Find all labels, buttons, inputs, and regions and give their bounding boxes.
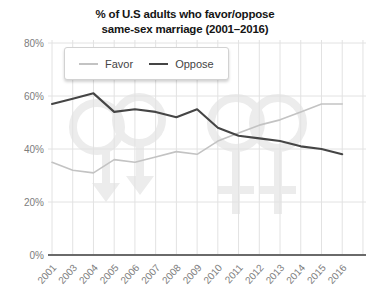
- svg-text:2008: 2008: [160, 262, 183, 286]
- svg-text:2012: 2012: [243, 262, 266, 286]
- legend-item-oppose: Oppose: [149, 58, 214, 70]
- watermark-gender-symbols: [73, 97, 303, 214]
- svg-text:60%: 60%: [24, 91, 44, 102]
- line-chart: 0%20%40%60%80%20012003200420052006200720…: [0, 0, 370, 296]
- svg-text:2001: 2001: [35, 262, 58, 286]
- svg-text:20%: 20%: [24, 197, 44, 208]
- legend-label-favor: Favor: [105, 58, 133, 70]
- y-axis-labels: 0%20%40%60%80%: [24, 38, 44, 261]
- x-axis-labels: 2001200320042005200620072008200920102011…: [35, 262, 349, 286]
- svg-text:2013: 2013: [263, 262, 286, 286]
- chart-title-line1: % of U.S adults who favor/oppose: [0, 7, 370, 22]
- svg-text:2014: 2014: [284, 262, 307, 286]
- svg-text:2011: 2011: [222, 262, 245, 286]
- svg-text:2010: 2010: [201, 262, 224, 286]
- svg-text:2004: 2004: [77, 262, 100, 286]
- svg-text:2007: 2007: [139, 262, 162, 286]
- svg-text:2005: 2005: [98, 262, 121, 286]
- legend: Favor Oppose: [64, 47, 229, 80]
- svg-text:0%: 0%: [30, 250, 45, 261]
- svg-text:2009: 2009: [181, 262, 204, 286]
- svg-text:40%: 40%: [24, 144, 44, 155]
- chart-canvas: % of U.S adults who favor/oppose same-se…: [0, 0, 370, 296]
- svg-text:2003: 2003: [56, 262, 79, 286]
- legend-item-favor: Favor: [79, 58, 133, 70]
- oppose-line-swatch: [149, 63, 168, 65]
- chart-title-line2: same-sex marriage (2001–2016): [0, 22, 370, 37]
- svg-text:2016: 2016: [326, 262, 349, 286]
- svg-text:2006: 2006: [118, 262, 141, 286]
- svg-text:80%: 80%: [24, 38, 44, 49]
- svg-text:2015: 2015: [305, 262, 328, 286]
- favor-line-swatch: [79, 63, 98, 65]
- chart-title: % of U.S adults who favor/oppose same-se…: [0, 7, 370, 36]
- legend-label-oppose: Oppose: [175, 58, 214, 70]
